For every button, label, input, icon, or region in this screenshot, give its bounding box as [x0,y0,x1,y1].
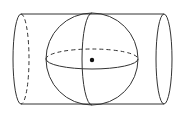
sphere-in-cylinder-diagram [0,0,184,117]
sphere-center-point [90,58,94,62]
sphere-equator-hidden [46,49,138,59]
cylinder-right-end [156,14,172,104]
cylinder-left-end-front [13,14,21,104]
cylinder-left-end-hidden [21,14,29,104]
